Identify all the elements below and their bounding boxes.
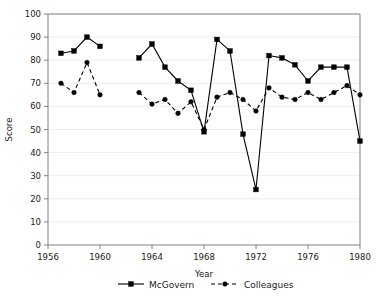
data-point — [332, 90, 337, 95]
line-chart: 0102030405060708090100 19561960196419681… — [0, 0, 381, 300]
data-point — [345, 65, 350, 70]
data-point — [189, 99, 194, 104]
data-point — [163, 65, 168, 70]
legend-label-colleagues: Colleagues — [244, 280, 294, 290]
gridlines — [48, 14, 360, 222]
data-point — [215, 37, 220, 42]
y-tick-label: 70 — [30, 78, 41, 88]
y-axis-ticks: 0102030405060708090100 — [25, 9, 48, 250]
data-point — [319, 65, 324, 70]
data-point — [150, 102, 155, 107]
data-point — [215, 95, 220, 100]
series-line — [61, 37, 100, 53]
y-tick-label: 100 — [25, 9, 41, 19]
data-point — [59, 51, 64, 56]
y-tick-label: 40 — [30, 148, 41, 158]
data-point — [72, 49, 77, 54]
y-tick-label: 90 — [30, 32, 41, 42]
data-point — [85, 35, 90, 40]
data-point — [72, 90, 77, 95]
data-point — [358, 93, 363, 98]
chart-container: 0102030405060708090100 19561960196419681… — [0, 0, 381, 300]
x-axis-ticks: 1956196019641968197219761980 — [37, 245, 371, 262]
series-line — [139, 86, 360, 130]
series-line — [139, 39, 360, 189]
data-point — [137, 90, 142, 95]
data-point — [293, 63, 298, 68]
data-point — [280, 95, 285, 100]
y-tick-label: 30 — [30, 171, 41, 181]
data-point — [137, 56, 142, 61]
x-tick-label: 1960 — [89, 252, 111, 262]
x-tick-label: 1968 — [193, 252, 215, 262]
legend-label-mcgovern: McGovern — [149, 280, 194, 290]
y-tick-label: 60 — [30, 101, 41, 111]
data-point — [345, 83, 350, 88]
x-tick-label: 1964 — [141, 252, 163, 262]
data-point — [254, 187, 259, 192]
data-point — [254, 109, 259, 114]
data-point — [306, 79, 311, 84]
x-tick-label: 1972 — [245, 252, 267, 262]
data-point — [163, 97, 168, 102]
legend-marker-square — [129, 282, 134, 287]
y-tick-label: 10 — [30, 217, 41, 227]
chart-legend: McGovernColleagues — [118, 280, 294, 290]
data-point — [267, 53, 272, 58]
data-series — [59, 35, 363, 192]
data-point — [189, 88, 194, 93]
y-tick-label: 20 — [30, 194, 41, 204]
y-tick-label: 0 — [36, 240, 41, 250]
data-point — [228, 90, 233, 95]
data-point — [228, 49, 233, 54]
y-tick-label: 50 — [30, 125, 41, 135]
data-point — [176, 79, 181, 84]
data-point — [98, 93, 103, 98]
data-point — [280, 56, 285, 61]
data-point — [85, 60, 90, 65]
data-point — [358, 139, 363, 144]
x-axis-title: Year — [194, 269, 214, 279]
data-point — [59, 81, 64, 86]
x-tick-label: 1976 — [297, 252, 319, 262]
data-point — [306, 90, 311, 95]
y-tick-label: 80 — [30, 55, 41, 65]
x-tick-label: 1956 — [37, 252, 59, 262]
data-point — [293, 97, 298, 102]
data-point — [98, 44, 103, 49]
data-point — [319, 97, 324, 102]
data-point — [267, 86, 272, 91]
data-point — [150, 42, 155, 47]
series-line — [61, 63, 100, 95]
legend-marker-circle — [223, 282, 228, 287]
data-point — [241, 97, 246, 102]
data-point — [202, 127, 207, 132]
x-tick-label: 1980 — [349, 252, 371, 262]
data-point — [332, 65, 337, 70]
y-axis-title: Score — [4, 118, 14, 142]
data-point — [241, 132, 246, 137]
data-point — [176, 111, 181, 116]
